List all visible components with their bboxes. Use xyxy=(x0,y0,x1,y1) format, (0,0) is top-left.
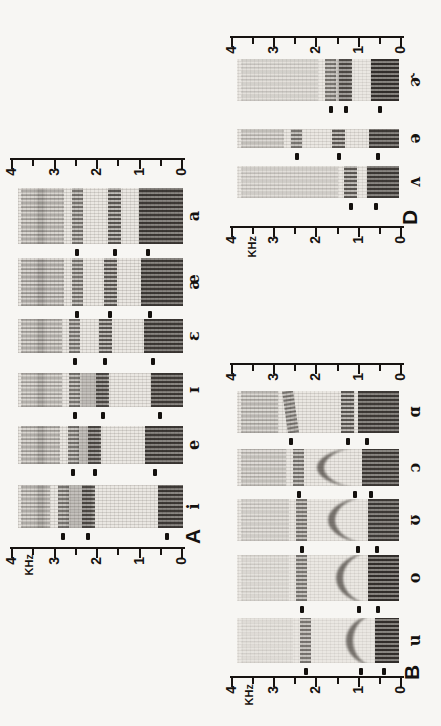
formant-marker xyxy=(113,249,117,256)
voicing-band xyxy=(375,618,399,663)
freq-axis-tick xyxy=(117,549,119,555)
formant-marker xyxy=(300,546,304,553)
freq-axis-tick-label: 2 xyxy=(308,686,323,706)
freq-axis-tick xyxy=(75,549,77,555)
spectrogram-strip xyxy=(18,426,183,464)
vowel-spectrogram-figure: A B D KHz KHz KHz 4321043210ieɪɛæa432104… xyxy=(0,0,441,726)
freq-axis-tick-label: 0 xyxy=(393,686,408,706)
formant-band xyxy=(69,319,80,353)
voicing-band xyxy=(368,499,399,541)
spectrogram-strip xyxy=(18,373,183,407)
vowel-label: i xyxy=(185,481,203,532)
freq-axis-unit-label: KHz xyxy=(243,684,255,718)
freq-axis-tick xyxy=(252,678,254,684)
formant-arch xyxy=(328,499,373,541)
formant-marker xyxy=(75,249,79,256)
freq-axis-tick-label: 3 xyxy=(47,557,62,577)
vowel-label: ə xyxy=(406,125,424,152)
spectrogram-strip xyxy=(237,618,399,663)
freq-axis-tick xyxy=(294,678,296,684)
vowel-label: ɑ xyxy=(406,387,424,437)
voicing-band xyxy=(141,258,183,306)
freq-axis-tick xyxy=(294,228,296,234)
freq-axis-tick-label: 3 xyxy=(266,686,281,706)
formant-band xyxy=(291,129,302,148)
voicing-band xyxy=(367,166,399,198)
spectrogram-strip xyxy=(237,555,399,601)
formant-band xyxy=(68,426,79,464)
freq-axis-tick-label: 1 xyxy=(132,168,147,188)
formant-marker xyxy=(86,533,90,540)
high-frequency-energy xyxy=(241,499,289,541)
freq-axis-tick xyxy=(117,160,119,166)
formant-band xyxy=(293,449,304,486)
formant-band-faint xyxy=(37,373,45,407)
high-frequency-energy xyxy=(241,129,284,148)
formant-band-faint xyxy=(37,188,45,244)
formant-marker xyxy=(300,606,304,613)
spectrogram-strip xyxy=(18,258,183,306)
formant-marker xyxy=(61,533,65,540)
voicing-band xyxy=(371,59,399,101)
voicing-band xyxy=(368,555,399,601)
high-frequency-energy xyxy=(241,555,289,601)
formant-marker xyxy=(375,546,379,553)
spectrogram-strip xyxy=(18,485,183,528)
formant-marker xyxy=(346,438,350,445)
freq-axis-tick-label: 2 xyxy=(308,236,323,256)
formant-marker xyxy=(289,438,293,445)
formant-marker xyxy=(297,491,301,498)
formant-marker xyxy=(108,311,112,318)
freq-axis-tick-label: 1 xyxy=(351,686,366,706)
formant-band xyxy=(58,485,69,528)
freq-axis-unit-label: KHz xyxy=(246,236,258,270)
formant-marker xyxy=(146,249,150,256)
vowel-label: ɪ xyxy=(185,369,203,411)
freq-axis-unit-label: KHz xyxy=(23,554,35,588)
formant-band-faint xyxy=(37,319,45,353)
freq-axis-tick xyxy=(294,365,296,371)
freq-axis-tick xyxy=(252,228,254,234)
formant-marker xyxy=(148,311,152,318)
formant-band xyxy=(296,555,307,601)
formant-arch xyxy=(346,618,376,663)
formant-marker xyxy=(71,469,75,476)
freq-axis-tick xyxy=(32,549,34,555)
freq-axis-tick-label: 4 xyxy=(224,373,239,393)
spectrogram-strip xyxy=(237,499,399,541)
freq-axis-tick xyxy=(337,365,339,371)
vowel-label: æ xyxy=(185,254,203,310)
formant-merge xyxy=(80,373,108,407)
vowel-label: u xyxy=(406,614,424,667)
high-frequency-energy xyxy=(241,449,286,486)
freq-axis-tick-label: 3 xyxy=(266,236,281,256)
voicing-band xyxy=(139,188,183,244)
freq-axis-tick xyxy=(337,678,339,684)
vowel-label: ɚ xyxy=(406,55,424,105)
formant-band xyxy=(99,319,112,353)
formant-marker xyxy=(382,668,386,675)
panel-label-D: D xyxy=(398,209,422,225)
formant-marker xyxy=(376,606,380,613)
vowel-label: ɔ xyxy=(406,445,424,490)
formant-band xyxy=(72,188,83,244)
formant-marker xyxy=(344,106,348,113)
formant-marker xyxy=(93,469,97,476)
formant-marker xyxy=(73,358,77,365)
formant-marker xyxy=(353,491,357,498)
freq-axis-tick xyxy=(75,160,77,166)
freq-axis-tick xyxy=(160,549,162,555)
voicing-band xyxy=(145,426,183,464)
spectrogram-strip xyxy=(18,188,183,244)
spectrogram-strip xyxy=(237,449,399,486)
high-frequency-energy xyxy=(241,59,318,101)
formant-merge xyxy=(68,485,93,528)
freq-axis-tick-label: 2 xyxy=(308,373,323,393)
formant-marker xyxy=(295,153,299,160)
freq-axis-tick xyxy=(32,160,34,166)
formant-marker xyxy=(101,412,105,419)
voicing-band xyxy=(369,129,399,148)
freq-axis-tick xyxy=(252,365,254,371)
voicing-band xyxy=(144,319,183,353)
formant-marker xyxy=(337,153,341,160)
